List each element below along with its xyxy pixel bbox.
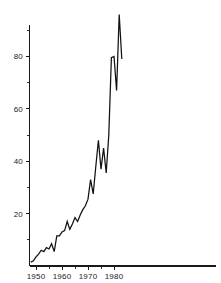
y-tick-labels: 20406080 [14,52,24,218]
chart-canvas: 20406080 1950196019701980 [0,0,221,283]
x-axis-group: 1950196019701980 [27,266,216,281]
y-axis-group: 20406080 [14,25,30,266]
y-tick-label: 60 [14,105,24,114]
data-series-group [31,15,122,263]
line-chart: 20406080 1950196019701980 [0,0,221,283]
x-tick-label: 1950 [27,272,46,281]
y-tick-label: 80 [14,52,24,61]
x-tick-label: 1960 [53,272,72,281]
x-tick-labels: 1950196019701980 [27,272,124,281]
y-tick-marks [26,30,30,240]
x-tick-label: 1970 [79,272,98,281]
x-tick-marks [36,266,114,270]
y-tick-label: 20 [14,210,24,219]
data-line-series-1 [31,15,122,263]
x-tick-label: 1980 [105,272,124,281]
y-tick-label: 40 [14,157,24,166]
